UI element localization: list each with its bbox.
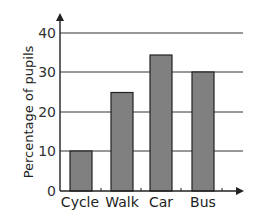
bar-car — [150, 55, 172, 191]
y-tick: 40 — [38, 25, 56, 41]
bar-bus — [192, 72, 214, 191]
y-tick: 30 — [38, 64, 56, 80]
y-tick: 0 — [47, 183, 56, 199]
bars — [70, 55, 214, 191]
category-label: Car — [149, 194, 173, 210]
y-axis-label: Percentage of pupils — [21, 45, 36, 178]
y-tick: 10 — [38, 143, 56, 159]
x-category-labels: Cycle Walk Car Bus — [61, 194, 216, 210]
bar-chart: 0 10 20 30 40 Cycle Walk Car Bus Percent… — [0, 0, 258, 221]
category-label: Walk — [105, 194, 139, 210]
y-tick-labels: 0 10 20 30 40 — [38, 25, 56, 199]
y-tick: 20 — [38, 104, 56, 120]
category-label: Bus — [190, 194, 216, 210]
bar-walk — [111, 93, 133, 192]
bar-cycle — [70, 151, 92, 191]
category-label: Cycle — [61, 194, 99, 210]
